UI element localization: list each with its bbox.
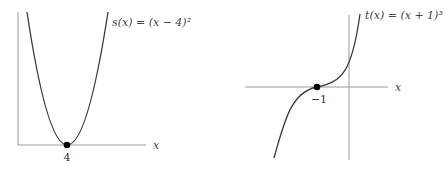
tick-label-4: 4 xyxy=(64,151,71,164)
figures-canvas: 4 x s(x) = (x − 4)² −1 x t(x) = (x + 1)³ xyxy=(0,0,446,173)
x-axis-label-right: x xyxy=(395,81,402,94)
function-label-t: t(x) = (x + 1)³ xyxy=(365,9,443,22)
function-label-s: s(x) = (x − 4)² xyxy=(112,16,191,29)
graph-left: 4 x s(x) = (x − 4)² xyxy=(18,12,191,164)
vertex-point xyxy=(64,142,71,149)
tick-label-neg1: −1 xyxy=(311,93,327,106)
parabola-curve xyxy=(27,12,108,145)
x-axis-label-left: x xyxy=(153,139,160,152)
graph-right: −1 x t(x) = (x + 1)³ xyxy=(245,9,443,160)
inflection-point xyxy=(314,84,321,91)
